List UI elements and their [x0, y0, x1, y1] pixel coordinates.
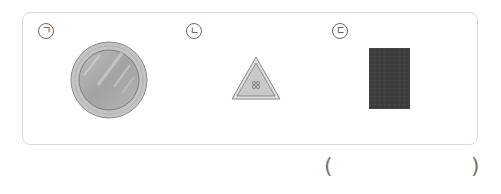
label-giyeok: ㄱ: [38, 23, 54, 39]
label-text: ㄱ: [42, 26, 51, 36]
dark-rectangle-image: [369, 48, 410, 109]
answer-close-paren: ): [471, 153, 480, 178]
lens-icon: [70, 41, 148, 119]
label-text: ㄴ: [190, 26, 199, 36]
label-digeut: ㄷ: [332, 23, 348, 39]
answer-blank[interactable]: [340, 155, 470, 181]
triangle-sign-image: [231, 56, 281, 104]
triangle-icon: [231, 56, 281, 100]
answer-open-paren: (: [324, 153, 333, 178]
lens-circle-image: [70, 41, 148, 123]
label-text: ㄷ: [336, 26, 345, 36]
label-nieun: ㄴ: [186, 23, 202, 39]
